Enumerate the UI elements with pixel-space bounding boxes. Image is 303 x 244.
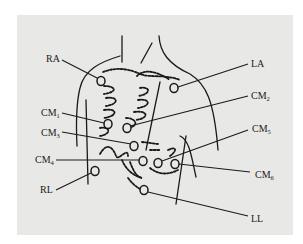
electrode-RL — [91, 167, 99, 176]
leader-CM2 — [130, 96, 248, 126]
leader-LL — [148, 192, 248, 216]
label-RA: RA — [46, 54, 60, 64]
label-LA: LA — [251, 59, 264, 69]
leader-CM3 — [62, 132, 131, 144]
electrode-CM3 — [130, 142, 138, 151]
right-arm-line — [86, 100, 88, 184]
electrode-CM1 — [104, 120, 112, 129]
label-CM4: CM4 — [35, 155, 54, 167]
label-CM6-text: CM — [255, 169, 271, 180]
electrode-LA — [170, 84, 178, 93]
label-CM1: CM1 — [41, 108, 60, 120]
neck-mid-line — [141, 43, 152, 63]
leader-CM6 — [179, 164, 250, 172]
label-RL: RL — [40, 185, 53, 195]
label-LL: LL — [251, 214, 263, 224]
leader-CM5 — [162, 130, 248, 161]
label-CM1-text: CM — [41, 107, 57, 118]
label-CM4-sub: 4 — [51, 159, 54, 166]
electrode-RA — [97, 77, 105, 86]
label-CM5-sub: 5 — [268, 128, 271, 135]
electrode-LL — [140, 186, 148, 195]
torso-electrode-diagram — [0, 0, 303, 244]
label-CM5-text: CM — [252, 123, 268, 134]
label-CM5: CM5 — [252, 124, 271, 136]
label-RL-text: RL — [40, 184, 53, 195]
leader-RA — [62, 60, 99, 79]
leader-LA — [178, 64, 248, 87]
electrode-CM2 — [123, 124, 131, 133]
leader-lines — [56, 60, 250, 216]
label-CM3: CM3 — [41, 128, 60, 140]
leader-RL — [56, 173, 91, 190]
electrode-CM4 — [139, 157, 147, 166]
label-CM4-text: CM — [35, 154, 51, 165]
label-LA-text: LA — [251, 58, 264, 69]
label-CM2-sub: 2 — [267, 95, 270, 102]
label-CM6-sub: 6 — [271, 174, 274, 181]
leader-CM1 — [62, 113, 104, 123]
label-CM6: CM6 — [255, 170, 274, 182]
label-RA-text: RA — [46, 53, 60, 64]
label-CM1-sub: 1 — [57, 112, 60, 119]
label-CM2: CM2 — [251, 91, 270, 103]
label-LL-text: LL — [251, 213, 263, 224]
label-CM3-text: CM — [41, 127, 57, 138]
electrode-CM6 — [171, 160, 179, 169]
label-CM3-sub: 3 — [57, 132, 60, 139]
label-CM2-text: CM — [251, 90, 267, 101]
left-shoulder-outline — [159, 36, 218, 150]
electrode-CM5 — [154, 159, 162, 168]
